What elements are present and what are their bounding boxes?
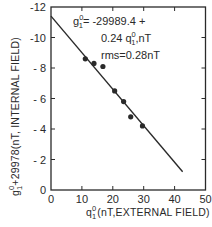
data-point [83, 56, 88, 61]
x-tick-label: 30 [138, 193, 150, 205]
x-tick-label: 50 [199, 193, 211, 205]
data-point [91, 61, 96, 66]
equation-line-2: 0.24 q01,nT [101, 30, 152, 47]
y-tick-label: 0 [40, 184, 46, 196]
y-tick-label: - 8 [33, 62, 46, 74]
data-point [140, 123, 145, 128]
scatter-chart: 01020304050 0- 2- 4- 6- 8-10-12 g01= -29… [0, 0, 212, 227]
y-tick-label: - 6 [33, 93, 46, 105]
y-tick-label: - 4 [33, 123, 46, 135]
equation-line-1: g01= -29989.4 + [73, 13, 145, 30]
x-tick-label: 10 [76, 193, 88, 205]
x-tick-label: 20 [107, 193, 119, 205]
data-points [83, 56, 145, 128]
data-point [100, 64, 105, 69]
equation-annotation: g01= -29989.4 + 0.24 q01,nT rms=0.28nT [73, 13, 160, 61]
y-tick-labels: 0- 2- 4- 6- 8-10-12 [30, 1, 46, 196]
rms-annotation: rms=0.28nT [101, 49, 160, 61]
y-axis-label: g01+29978(nT, INTERNAL FIELD) [7, 37, 24, 196]
x-axis-label: q01(nT,EXTERNAL FIELD) [86, 204, 210, 221]
y-tick-label: -10 [30, 32, 46, 44]
data-point [112, 88, 117, 93]
x-tick-labels: 01020304050 [48, 193, 212, 205]
x-tick-label: 0 [48, 193, 54, 205]
y-tick-label: - 2 [33, 154, 46, 166]
x-tick-label: 40 [168, 193, 180, 205]
data-point [128, 114, 133, 119]
data-point [121, 99, 126, 104]
y-tick-label: -12 [30, 1, 46, 13]
